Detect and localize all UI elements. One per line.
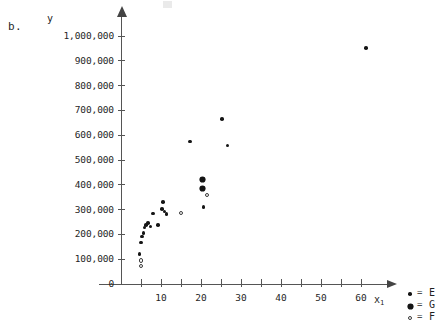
data-point-e [188,140,192,144]
legend: =E=G=F [408,288,447,324]
data-point-e [151,212,155,216]
data-point-f [139,258,143,262]
data-point-e [202,205,206,209]
x-tick-minor [301,279,302,287]
y-tick [118,85,125,86]
y-tick [118,259,125,260]
data-point-e [146,221,150,225]
y-tick-label: 900,000 [42,55,114,66]
y-tick [118,160,125,161]
y-tick [118,110,125,111]
data-point-e [226,144,230,148]
y-axis-arrow-icon [117,6,127,17]
legend-marker-open-circle-icon [408,316,412,320]
legend-equals-sign: = [417,311,422,321]
data-point-g [200,186,205,191]
legend-equals-sign: = [417,287,422,297]
data-point-f [179,211,183,215]
y-tick-label: 100,000 [42,253,114,264]
legend-row: =G [408,300,447,312]
y-tick-label: 400,000 [42,179,114,190]
y-tick-label: 600,000 [42,129,114,140]
data-point-e [364,46,368,50]
y-tick [118,36,125,37]
x-tick-label: 50 [306,292,336,303]
data-point-e [161,200,165,204]
data-point-e [156,223,160,227]
data-point-e [149,225,153,229]
data-point-e [165,212,169,216]
legend-marker-filled-dot-icon [408,292,412,296]
data-point-e [142,231,146,235]
y-tick-label: 300,000 [42,204,114,215]
y-tick [118,60,125,61]
x-tick-major [241,279,242,287]
legend-equals-sign: = [417,299,422,309]
legend-row: =E [408,288,447,300]
plot-area: 0100,000200,000300,000400,000500,000600,… [0,0,447,325]
x-tick-minor [221,279,222,287]
x-tick-major [321,279,322,287]
y-tick-label: 500,000 [42,154,114,165]
y-axis-line [121,16,122,285]
legend-label: E [429,287,435,298]
x-tick-label: 20 [186,292,216,303]
x-tick-label: 40 [266,292,296,303]
x-axis-line [99,284,389,285]
figure-root: b. y x1 0100,000200,000300,000400,000500… [0,0,447,325]
data-point-g [200,177,205,182]
y-tick [118,184,125,185]
x-tick-minor [181,279,182,287]
legend-row: =F [408,312,447,324]
legend-label: F [429,311,435,322]
data-point-f [139,264,143,268]
data-point-f [205,193,209,197]
x-tick-major [201,279,202,287]
x-tick-minor [141,279,142,287]
y-tick-label: 1,000,000 [42,30,114,41]
y-tick-label: 0 [42,278,114,289]
x-tick-major [281,279,282,287]
x-tick-major [161,279,162,287]
legend-label: G [429,299,435,310]
data-point-e [220,117,224,121]
data-point-e [138,252,142,256]
x-tick-label: 10 [146,292,176,303]
y-tick-label: 700,000 [42,104,114,115]
x-tick-minor [341,279,342,287]
legend-marker-star-icon [408,304,413,309]
y-tick [118,209,125,210]
x-tick-label: 30 [226,292,256,303]
x-tick-minor [261,279,262,287]
x-tick-label: 60 [346,292,376,303]
data-point-e [139,241,143,245]
y-tick-label: 800,000 [42,80,114,91]
data-point-e [140,235,144,239]
y-tick-label: 200,000 [42,228,114,239]
x-axis-arrow-icon [387,280,397,288]
y-tick [118,135,125,136]
x-tick-major [361,279,362,287]
y-tick [118,234,125,235]
